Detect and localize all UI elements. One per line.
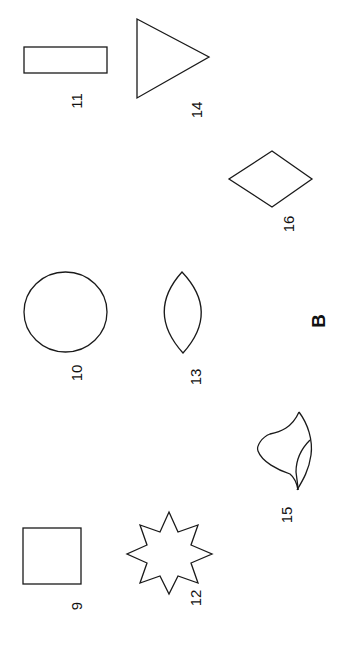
shape-15-leaf: [258, 412, 299, 490]
shape-9-square: [23, 528, 81, 584]
shape-15-outer-curve: [297, 412, 311, 490]
label-16: 16: [281, 216, 296, 233]
shape-14-triangle: [137, 19, 209, 98]
shape-15-inner-curve: [296, 440, 310, 490]
label-14: 14: [189, 102, 204, 119]
shape-16-diamond: [229, 151, 312, 207]
label-11: 11: [69, 93, 84, 109]
label-13: 13: [188, 369, 203, 386]
label-10: 10: [69, 365, 84, 382]
label-12: 12: [188, 590, 203, 607]
shape-10-circle: [24, 272, 107, 352]
shape-11-rectangle: [24, 47, 107, 73]
shape-13-lens: [164, 272, 201, 353]
panel-letter: B: [309, 314, 328, 328]
label-9: 9: [69, 602, 84, 610]
label-15: 15: [279, 507, 294, 524]
shapes-canvas: [0, 0, 338, 648]
shape-12-star: [127, 512, 212, 594]
shapes-figure: 11 14 16 10 13 15 9 12 B: [0, 0, 338, 648]
